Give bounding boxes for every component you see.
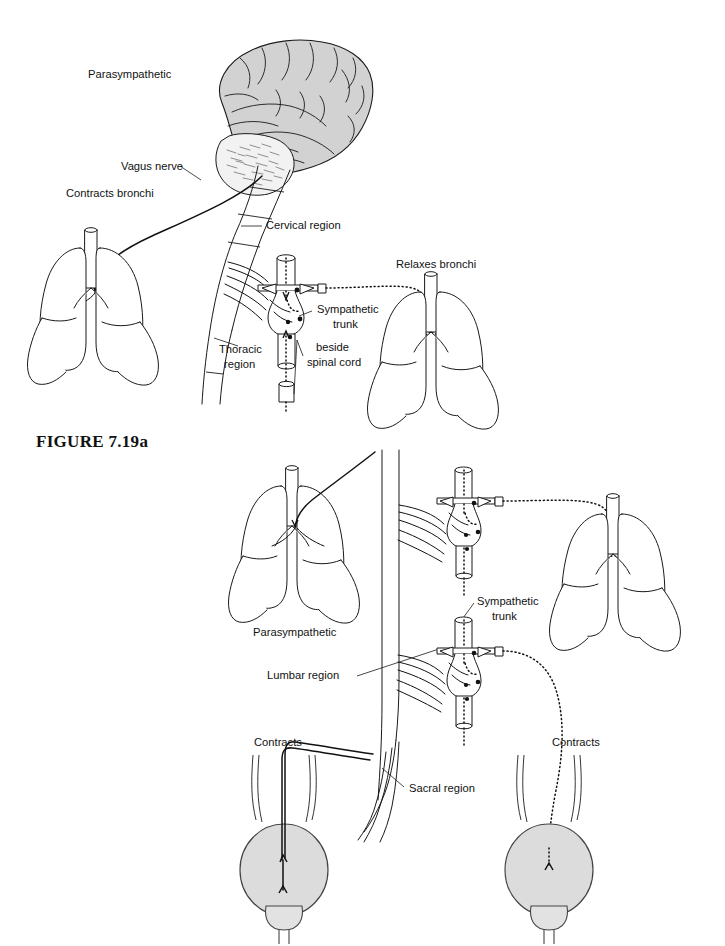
label-beside-spinal-1: beside xyxy=(316,341,349,353)
label-beside-spinal-2: spinal cord xyxy=(307,356,361,368)
lung-icon xyxy=(228,466,359,623)
leader-sacral-region xyxy=(382,768,404,787)
label-parasympathetic: Parasympathetic xyxy=(88,68,172,80)
label-sacral-region: Sacral region xyxy=(409,782,475,794)
cerebellum-icon xyxy=(216,134,294,196)
label-relaxes-bronchi: Relaxes bronchi xyxy=(396,258,476,270)
top-panel: Parasympathetic Vagus nerve Contracts br… xyxy=(27,40,498,429)
ganglion-icon xyxy=(437,467,503,579)
ganglion-icon xyxy=(258,255,326,402)
lung-icon xyxy=(27,228,158,385)
label-sympathetic-trunk-1: Sympathetic xyxy=(317,303,379,315)
label-sympathetic-trunk-2: trunk xyxy=(333,318,358,330)
label-sympathetic-trunk-b2: trunk xyxy=(492,610,517,622)
label-sympathetic-trunk-b1: Sympathetic xyxy=(477,595,539,607)
anatomy-figure-canvas: Parasympathetic Vagus nerve Contracts br… xyxy=(0,0,725,946)
bottom-panel: Parasympathetic Lumbar region Sacral reg… xyxy=(228,450,680,944)
spinal-nerve-roots-lumbar xyxy=(398,505,446,562)
figure-caption: FIGURE 7.19a xyxy=(36,432,148,451)
label-contracts-left: Contracts xyxy=(254,736,302,748)
label-contracts-bronchi: Contracts bronchi xyxy=(66,187,154,199)
spinal-nerve-roots-sacral xyxy=(397,655,445,712)
leader-vagus xyxy=(180,166,201,180)
label-contracts-right: Contracts xyxy=(552,736,600,748)
label-cervical-region: Cervical region xyxy=(266,219,341,231)
spinal-cord-icon xyxy=(358,450,399,842)
label-parasympathetic-b: Parasympathetic xyxy=(253,626,337,638)
label-lumbar-region: Lumbar region xyxy=(267,669,339,681)
lung-icon xyxy=(549,494,680,651)
lung-icon xyxy=(367,272,498,429)
bladder-icon xyxy=(240,755,328,944)
sympathetic-to-bladder-path xyxy=(503,651,562,848)
figure-root: Parasympathetic Vagus nerve Contracts br… xyxy=(0,0,725,946)
label-thoracic-region-2: region xyxy=(224,358,255,370)
ganglion-icon xyxy=(437,617,503,729)
label-vagus-nerve: Vagus nerve xyxy=(121,160,183,172)
bottom-panel-labels: Parasympathetic Lumbar region Sacral reg… xyxy=(253,595,600,794)
label-thoracic-region-1: Thoracic xyxy=(219,343,262,355)
